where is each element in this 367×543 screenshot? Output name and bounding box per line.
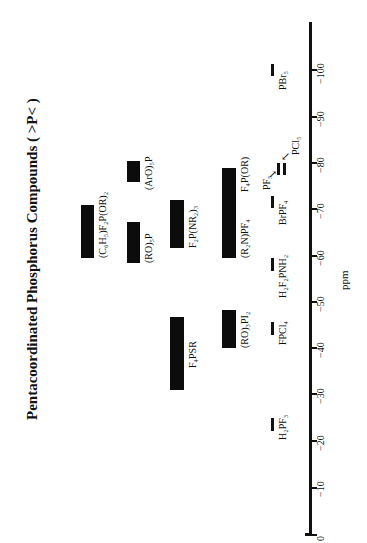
label-pbr5: PBr₅ bbox=[277, 71, 288, 90]
mark-pcl5 bbox=[283, 163, 286, 175]
tick-label: −90 bbox=[315, 111, 326, 127]
label-h2pf3: H₂PF₃ bbox=[277, 415, 288, 440]
bar-f4por bbox=[222, 168, 236, 195]
tick-label: −40 bbox=[315, 342, 326, 358]
bar-r2npf4 bbox=[222, 188, 236, 258]
mark-h2f2pnh2 bbox=[271, 258, 274, 271]
tick-label: 0 bbox=[315, 536, 326, 541]
bar-f4psr bbox=[170, 317, 184, 390]
mark-fpcl4 bbox=[271, 322, 274, 335]
arrow-pf5-icon: ↗ bbox=[268, 168, 277, 181]
label-c6h5f2p-or2: (C₆H₅)F₂P(OR)₂ bbox=[97, 192, 108, 258]
mark-brpf4 bbox=[271, 196, 274, 208]
label-f4por: F₄P(OR) bbox=[239, 157, 250, 192]
tick-label: −60 bbox=[315, 250, 326, 266]
bar-ro3pi2 bbox=[222, 310, 236, 348]
label-h2f2pnh2: H₂F₂PNH₂ bbox=[277, 255, 288, 298]
ppm-axis bbox=[309, 22, 312, 536]
axis-unit-label: ppm bbox=[338, 270, 350, 290]
chart-title: Pentacoordinated Phosphorus Compounds ( … bbox=[24, 98, 41, 420]
label-pcl5: PCl₅ bbox=[290, 137, 301, 156]
tick-label: −10 bbox=[315, 481, 326, 497]
tick-label: −80 bbox=[315, 157, 326, 173]
tick-label: −100 bbox=[315, 63, 326, 84]
tick-label: −50 bbox=[315, 296, 326, 312]
mark-pf5 bbox=[277, 163, 280, 175]
bar-aro5p bbox=[127, 161, 140, 182]
label-f4psr: F₄PSR bbox=[187, 341, 198, 368]
label-f2p-nr2-3: F₂P(NR₂)₃ bbox=[187, 206, 198, 248]
mark-h2pf3 bbox=[271, 418, 274, 431]
label-ro3pi2: (RO)₃PI₂ bbox=[239, 312, 250, 348]
label-aro5p: (ArO)₅P bbox=[143, 157, 154, 190]
label-r2npf4: (R₂N)PF₄ bbox=[239, 219, 250, 258]
arrow-pcl5-icon: ↙ bbox=[281, 150, 290, 163]
tick-label: −70 bbox=[315, 203, 326, 219]
label-fpcl4: FPCl₄ bbox=[277, 321, 288, 345]
bar-ro5p bbox=[127, 222, 140, 263]
tick-label: −30 bbox=[315, 388, 326, 404]
label-ro5p: (RO)₅P bbox=[143, 233, 154, 263]
chart: Pentacoordinated Phosphorus Compounds ( … bbox=[0, 0, 367, 543]
mark-pbr5 bbox=[271, 64, 274, 76]
tick-label: −20 bbox=[315, 435, 326, 451]
label-brpf4: BrPF₄ bbox=[277, 200, 288, 225]
bar-f2p-nr2-3 bbox=[170, 200, 184, 248]
bar-c6h5f2p-or2 bbox=[81, 205, 94, 258]
